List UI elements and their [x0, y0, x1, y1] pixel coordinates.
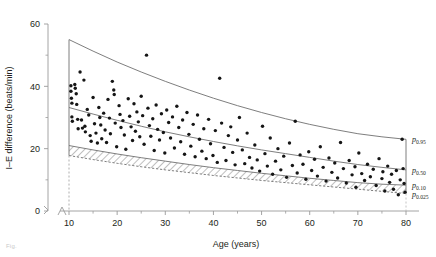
- data-point: [319, 145, 322, 148]
- data-point: [374, 184, 377, 187]
- data-point: [261, 125, 264, 128]
- data-point: [400, 138, 403, 141]
- data-point: [321, 166, 324, 169]
- data-point: [71, 120, 74, 123]
- data-point: [181, 118, 184, 121]
- data-point: [112, 88, 115, 91]
- data-point: [73, 83, 76, 86]
- data-point: [310, 169, 313, 172]
- data-point: [175, 105, 178, 108]
- data-point: [330, 171, 333, 174]
- data-point: [202, 127, 205, 130]
- data-point: [399, 178, 402, 181]
- data-point: [216, 161, 219, 164]
- data-point: [350, 173, 353, 176]
- data-point: [392, 187, 395, 190]
- data-point: [137, 120, 140, 123]
- data-point: [402, 182, 405, 185]
- data-point: [258, 169, 261, 172]
- data-point: [78, 70, 81, 73]
- data-point: [117, 104, 120, 107]
- data-point: [148, 124, 151, 127]
- data-point: [134, 130, 137, 133]
- y-axis-label: I–E difference (beats/min): [4, 67, 14, 170]
- data-point: [238, 116, 241, 119]
- data-point: [196, 113, 199, 116]
- data-point: [142, 143, 145, 146]
- data-point: [218, 77, 221, 80]
- data-point: [336, 176, 339, 179]
- data-point: [70, 101, 73, 104]
- data-point: [165, 108, 168, 111]
- data-point: [380, 177, 383, 180]
- data-point: [146, 106, 149, 109]
- data-point: [111, 80, 114, 83]
- data-point: [153, 149, 156, 152]
- data-point: [183, 153, 186, 156]
- y-tick-label: 40: [30, 82, 40, 92]
- data-point: [70, 96, 73, 99]
- data-point: [347, 159, 350, 162]
- data-point: [127, 97, 130, 100]
- data-point: [363, 179, 366, 182]
- percentile-annotations: p0.95p0.50p0.10p0.025: [411, 135, 429, 199]
- data-point: [390, 173, 393, 176]
- data-point: [131, 139, 134, 142]
- data-point: [156, 128, 159, 131]
- data-point: [207, 118, 210, 121]
- data-point: [357, 151, 360, 154]
- x-tick-label: 80: [401, 218, 411, 228]
- data-point: [403, 191, 406, 194]
- data-point: [353, 165, 356, 168]
- data-point: [360, 172, 363, 175]
- y-tick-label: 0: [35, 206, 40, 216]
- data-point: [179, 140, 182, 143]
- data-point: [119, 126, 122, 129]
- data-point: [372, 168, 375, 171]
- data-point: [160, 112, 163, 115]
- data-point: [192, 123, 195, 126]
- data-point: [307, 150, 310, 153]
- data-point: [263, 152, 266, 155]
- data-point: [145, 53, 148, 56]
- data-point: [70, 115, 73, 118]
- data-point: [76, 118, 79, 121]
- data-point: [138, 135, 141, 138]
- data-point: [214, 129, 217, 132]
- data-point: [96, 141, 99, 144]
- data-point: [177, 126, 180, 129]
- data-point: [140, 95, 143, 98]
- data-point: [369, 175, 372, 178]
- data-point: [80, 118, 83, 121]
- data-point: [135, 110, 138, 113]
- data-point: [269, 136, 272, 139]
- figure-caption: Fig.: [6, 243, 17, 249]
- data-point: [377, 157, 380, 160]
- data-point: [288, 141, 291, 144]
- data-point: [276, 147, 279, 150]
- data-point: [128, 115, 131, 118]
- data-point: [333, 161, 336, 164]
- x-tick-label: 50: [257, 218, 267, 228]
- data-point: [171, 115, 174, 118]
- data-point: [271, 173, 274, 176]
- data-point: [82, 78, 85, 81]
- data-point: [209, 142, 212, 145]
- data-point: [102, 111, 105, 114]
- data-point: [193, 155, 196, 158]
- data-point: [103, 128, 106, 131]
- data-point: [88, 134, 91, 137]
- data-point: [75, 103, 78, 106]
- y-tick-label: 20: [30, 144, 40, 154]
- data-point: [222, 146, 225, 149]
- data-point: [109, 132, 112, 135]
- data-point: [158, 138, 161, 141]
- data-point: [98, 116, 101, 119]
- data-point: [233, 163, 236, 166]
- data-point: [118, 113, 121, 116]
- data-point: [69, 90, 72, 93]
- data-point: [129, 125, 132, 128]
- x-tick-label: 60: [305, 218, 315, 228]
- data-point: [141, 114, 144, 117]
- data-point: [229, 125, 232, 128]
